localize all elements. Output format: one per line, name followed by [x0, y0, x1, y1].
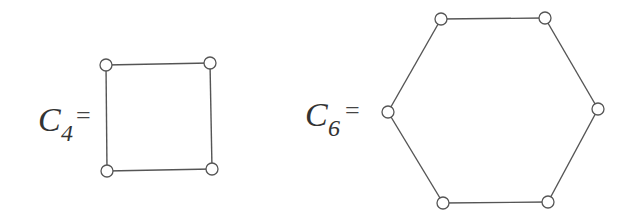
edge: [210, 63, 212, 169]
c6-equals-sign: =: [345, 96, 360, 125]
edge: [545, 18, 598, 109]
c6-label-subscript: 6: [328, 115, 340, 141]
vertex: [435, 13, 447, 25]
edge: [107, 169, 212, 171]
edge: [388, 19, 441, 112]
cycle-graphs-diagram: C 4 = C 6 =: [0, 0, 638, 222]
edge: [548, 109, 598, 202]
vertex: [101, 165, 113, 177]
c4-label: C 4 =: [38, 101, 91, 146]
vertex: [592, 103, 604, 115]
c4-equals-sign: =: [76, 101, 91, 130]
c6-graph: [382, 12, 604, 209]
vertex: [382, 106, 394, 118]
c6-label: C 6 =: [305, 96, 360, 141]
c4-label-letter: C: [38, 101, 61, 138]
c4-label-subscript: 4: [61, 120, 73, 146]
edge: [441, 18, 545, 19]
c4-graph: [100, 57, 218, 177]
vertex: [100, 59, 112, 71]
edge: [388, 112, 443, 203]
vertex: [539, 12, 551, 24]
edge: [106, 63, 210, 65]
c6-label-letter: C: [305, 96, 328, 133]
edge: [106, 65, 107, 171]
vertex: [542, 196, 554, 208]
vertex: [437, 197, 449, 209]
edge: [443, 202, 548, 203]
vertex: [206, 163, 218, 175]
vertex: [204, 57, 216, 69]
